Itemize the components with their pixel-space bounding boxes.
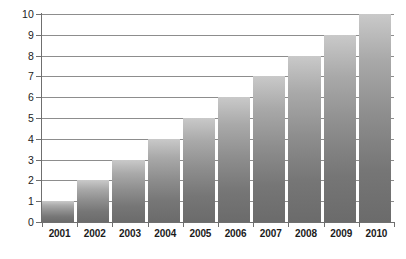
y-tick-6 <box>36 97 42 98</box>
x-tick-label-2008: 2008 <box>288 228 323 240</box>
x-tick-6 <box>253 222 254 227</box>
x-tick-label-2010: 2010 <box>359 228 394 240</box>
x-tick-label-2006: 2006 <box>218 228 253 240</box>
x-tick-2 <box>112 222 113 227</box>
y-tick-label-8: 8 <box>8 51 34 61</box>
y-tick-4 <box>36 139 42 140</box>
x-tick-9 <box>359 222 360 227</box>
bar-2005[interactable] <box>183 118 215 222</box>
y-tick-label-7: 7 <box>8 71 34 81</box>
x-tick-4 <box>183 222 184 227</box>
y-tick-label-2: 2 <box>8 175 34 185</box>
bar-2007[interactable] <box>253 76 285 222</box>
bar-chart: 012345678910 200120022003200420052006200… <box>0 0 406 259</box>
x-tick-label-2003: 2003 <box>112 228 147 240</box>
y-tick-8 <box>36 56 42 57</box>
bar-2009[interactable] <box>324 35 356 222</box>
x-axis-labels: 2001200220032004200520062007200820092010 <box>42 228 394 248</box>
y-tick-label-5: 5 <box>8 113 34 123</box>
y-tick-9 <box>36 35 42 36</box>
y-tick-label-0: 0 <box>8 217 34 227</box>
x-tick-1 <box>77 222 78 227</box>
y-tick-label-10: 10 <box>8 9 34 19</box>
bar-2002[interactable] <box>77 180 109 222</box>
x-tick-8 <box>324 222 325 227</box>
bars-layer <box>42 14 394 222</box>
x-tick-5 <box>218 222 219 227</box>
y-tick-label-6: 6 <box>8 92 34 102</box>
y-tick-label-4: 4 <box>8 134 34 144</box>
y-tick-7 <box>36 76 42 77</box>
x-tick-0 <box>42 222 43 227</box>
bar-2006[interactable] <box>218 97 250 222</box>
y-tick-2 <box>36 180 42 181</box>
x-tick-label-2001: 2001 <box>42 228 77 240</box>
y-tick-5 <box>36 118 42 119</box>
y-tick-3 <box>36 160 42 161</box>
x-tick-7 <box>288 222 289 227</box>
y-tick-1 <box>36 201 42 202</box>
y-tick-label-3: 3 <box>8 155 34 165</box>
bar-2001[interactable] <box>42 201 74 222</box>
x-tick-10 <box>394 222 395 227</box>
x-tick-3 <box>148 222 149 227</box>
x-tick-label-2004: 2004 <box>148 228 183 240</box>
bar-2008[interactable] <box>288 56 320 222</box>
x-tick-label-2005: 2005 <box>183 228 218 240</box>
y-tick-label-1: 1 <box>8 196 34 206</box>
y-axis-labels: 012345678910 <box>0 0 34 259</box>
y-tick-10 <box>36 14 42 15</box>
x-tick-label-2002: 2002 <box>77 228 112 240</box>
y-tick-label-9: 9 <box>8 30 34 40</box>
x-tick-label-2009: 2009 <box>324 228 359 240</box>
bar-2003[interactable] <box>112 160 144 222</box>
x-tick-label-2007: 2007 <box>253 228 288 240</box>
bar-2004[interactable] <box>148 139 180 222</box>
bar-2010[interactable] <box>359 14 391 222</box>
